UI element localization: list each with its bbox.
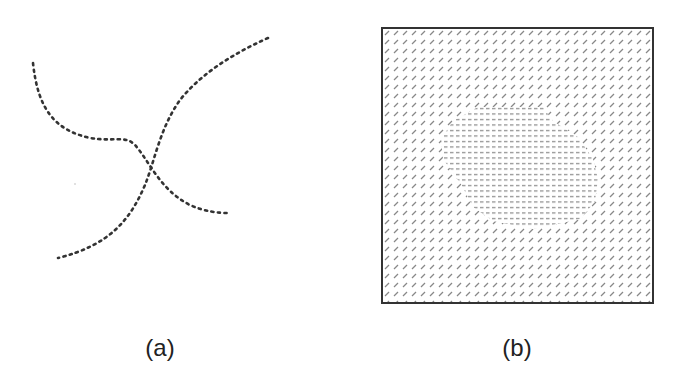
curve-2 — [58, 38, 268, 258]
panel-a-crossing-curves — [0, 0, 330, 320]
caption-a: (a) — [145, 334, 174, 362]
caption-b: (b) — [502, 334, 531, 362]
curve-1 — [33, 63, 228, 213]
panel-b-texture-box — [381, 27, 654, 304]
